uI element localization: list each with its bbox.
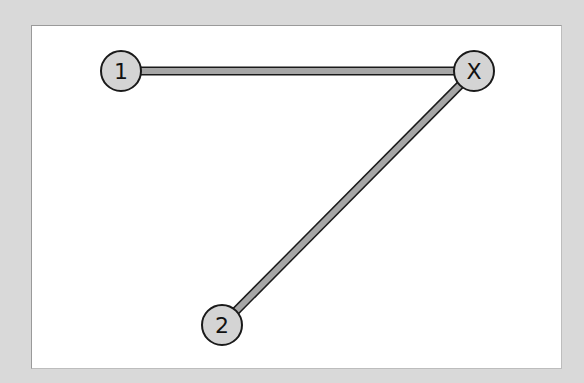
node-1-label: 1 [114,59,128,84]
node-2: 2 [202,305,242,345]
node-2-label: 2 [215,313,229,338]
diagram-canvas: 1 X 2 [0,0,584,383]
node-1: 1 [101,51,141,91]
node-x-label: X [466,59,481,84]
node-x: X [454,51,494,91]
edge-2-to-x [222,71,474,325]
